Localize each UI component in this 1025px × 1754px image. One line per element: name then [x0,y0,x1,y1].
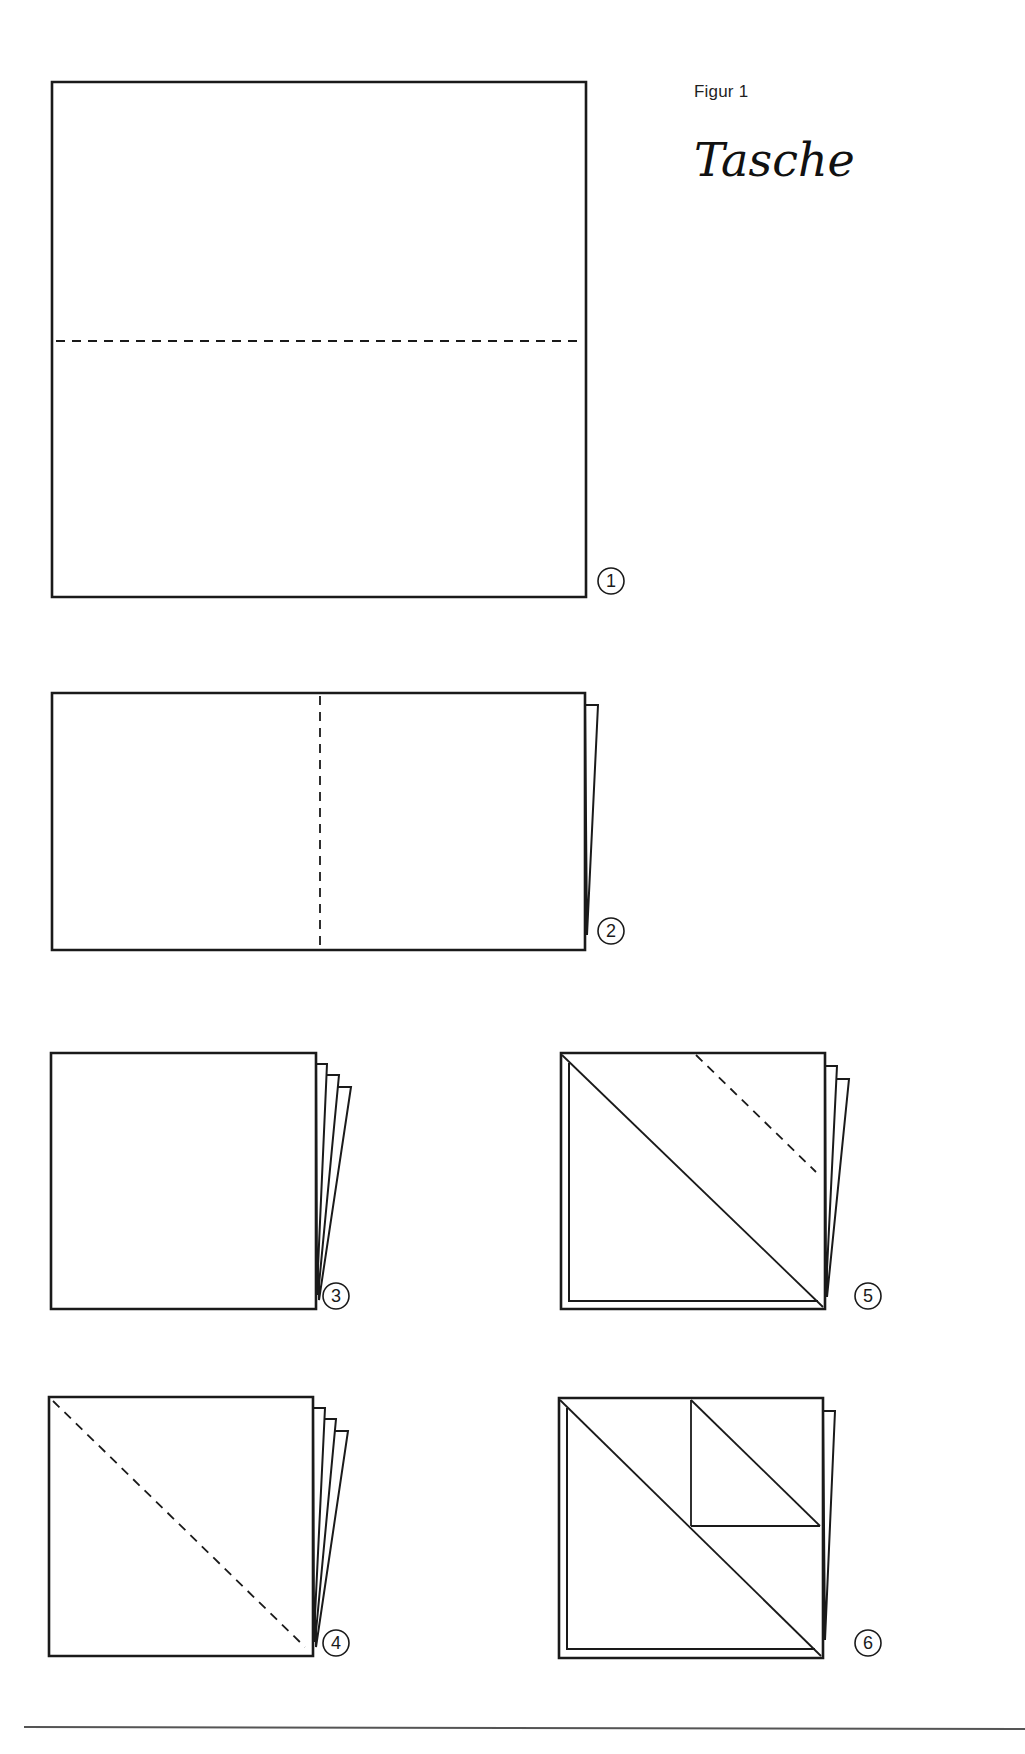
step-number-badge: 6 [855,1630,881,1656]
footer-rule [24,1727,1025,1729]
folding-diagram: 123456 [0,0,1025,1754]
steps-layer: 123456 [49,82,881,1658]
figure-title: Tasche [694,137,855,183]
step-number-badge: 2 [598,918,624,944]
step-number: 1 [606,571,616,591]
fold-step-2: 2 [52,693,624,950]
fold-step-1: 1 [52,82,624,597]
fold-step-3: 3 [51,1053,351,1309]
step-number-badge: 5 [855,1283,881,1309]
step-number: 5 [863,1286,873,1306]
step-number-badge: 1 [598,568,624,594]
fold-step-4: 4 [49,1397,349,1656]
step-number-badge: 3 [323,1283,349,1309]
figure-caption: Figur 1 [694,82,748,102]
step-number: 4 [331,1633,341,1653]
step-number: 3 [331,1286,341,1306]
fold-step-6: 6 [559,1398,881,1658]
step-number: 6 [863,1633,873,1653]
paper-outline [52,693,585,950]
back-sheet [585,705,598,935]
paper-outline [52,82,586,597]
paper-outline [51,1053,316,1309]
step-number: 2 [606,921,616,941]
page-rule [24,1727,1025,1729]
step-number-badge: 4 [323,1630,349,1656]
back-sheet [823,1411,835,1640]
fold-step-5: 5 [561,1053,881,1309]
